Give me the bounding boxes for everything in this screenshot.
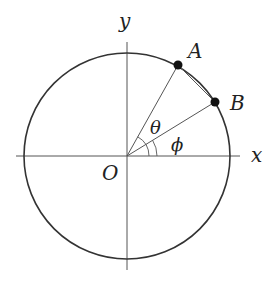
- point-b: [211, 98, 220, 107]
- diagram-canvas: y x O A B θ ϕ: [0, 0, 271, 282]
- arc-phi: [153, 140, 157, 156]
- point-b-label: B: [229, 91, 245, 115]
- phi-label: ϕ: [171, 134, 183, 155]
- unit-circle-diagram: y x O A B θ ϕ: [0, 0, 271, 282]
- x-axis-label: x: [251, 143, 262, 167]
- y-axis-label: y: [118, 9, 131, 33]
- chord-ab: [178, 65, 215, 102]
- theta-label: θ: [150, 117, 161, 138]
- origin-label: O: [102, 161, 118, 185]
- point-a-label: A: [186, 39, 202, 63]
- point-a: [174, 61, 183, 70]
